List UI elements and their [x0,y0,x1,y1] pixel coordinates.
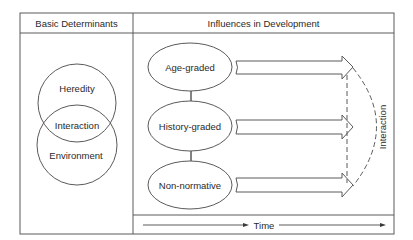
basic-determinants-header: Basic Determinants [35,18,118,29]
interaction-arc-label: Interaction [377,105,388,149]
environment-label: Environment [49,150,103,161]
history-graded-arrow [236,115,353,139]
history-graded-label: History-graded [159,121,221,132]
time-arrowhead-right [380,223,386,227]
non-normative-label: Non-normative [159,180,221,191]
diagram-canvas: Basic Determinants Influences in Develop… [0,0,413,240]
time-label: Time [254,220,275,231]
environment-circle [37,105,117,185]
age-graded-arrow [236,56,353,79]
age-graded-label: Age-graded [165,62,215,73]
time-arrowhead-left [243,223,249,227]
interaction-dashed-arc [353,68,377,186]
influences-header: Influences in Development [208,18,320,29]
interaction-overlap-label: Interaction [55,120,99,131]
heredity-label: Heredity [59,83,95,94]
non-normative-arrow [236,173,353,197]
